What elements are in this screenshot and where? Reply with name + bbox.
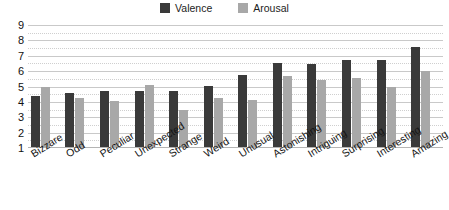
bar-valence-odd[interactable] — [65, 93, 74, 148]
legend-entry-arousal[interactable]: Arousal — [238, 3, 289, 14]
y-tick-label: 4 — [0, 96, 24, 107]
legend-swatch-icon — [238, 3, 248, 13]
bar-valence-unusual[interactable] — [238, 75, 247, 148]
bar-valence-weird[interactable] — [204, 86, 213, 148]
y-tick-label: 3 — [0, 112, 24, 123]
bar-valence-astonishing[interactable] — [273, 63, 282, 148]
y-tick-label: 5 — [0, 81, 24, 92]
y-tick-label: 9 — [0, 20, 24, 31]
legend-swatch-icon — [160, 3, 170, 13]
legend-label: Arousal — [253, 3, 289, 14]
bar-valence-bizzare[interactable] — [31, 96, 40, 148]
y-tick-label: 8 — [0, 35, 24, 46]
y-axis: 123456789 — [0, 25, 24, 148]
legend-label: Valence — [175, 3, 212, 14]
x-axis: BizzareOddPeculiarUnexpectedStrangeWeird… — [28, 150, 443, 210]
y-tick-label: 2 — [0, 127, 24, 138]
y-tick-label: 1 — [0, 143, 24, 154]
chart-legend: ValenceArousal — [0, 3, 449, 14]
y-tick-label: 7 — [0, 50, 24, 61]
legend-entry-valence[interactable]: Valence — [160, 3, 212, 14]
y-tick-label: 6 — [0, 66, 24, 77]
bar-valence-peculiar[interactable] — [100, 91, 109, 148]
bar-valence-unexpected[interactable] — [135, 91, 144, 148]
bar-group-astonishing — [273, 63, 292, 148]
